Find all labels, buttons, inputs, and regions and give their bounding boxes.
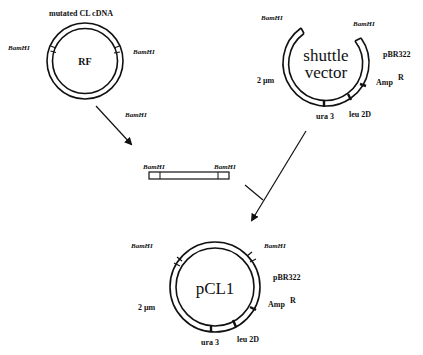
arrow-rf-to-fragment: BamHI (96, 106, 147, 144)
rf-insert-label: mutated CL cDNA (49, 9, 113, 18)
fragment-bamhi-left-label: BamHI (142, 163, 165, 171)
pcl1-amp-sup: R (290, 296, 296, 305)
pcl1-2micron-label: 2 µm (138, 303, 156, 312)
shuttle-bamhi-left-label: BamHI (260, 14, 283, 22)
arrow-bamhi-label: BamHI (124, 111, 147, 119)
shuttle-amp-label: Amp (376, 78, 393, 87)
shuttle-vector: shuttle vector BamHI BamHI pBR322 Amp R … (257, 14, 411, 121)
shuttle-end-right (355, 38, 361, 41)
shuttle-leu2d-label: leu 2D (349, 110, 371, 119)
shuttle-bamhi-right-label: BamHI (352, 20, 375, 28)
bamhi-fragment: BamHI BamHI (142, 163, 236, 179)
rf-bamhi-right-label: BamHI (132, 48, 155, 56)
pcl1-bamhi-left-label: BamHI (130, 242, 153, 250)
shuttle-pbr322-label: pBR322 (383, 50, 411, 59)
pcl1-label: pCL1 (196, 279, 235, 298)
arrow-branch-line (245, 185, 263, 200)
pcl1-ura3-label: ura 3 (201, 338, 219, 347)
fragment-bamhi-right-label: BamHI (213, 163, 236, 171)
rf-bamhi-right-tick2 (114, 52, 120, 53)
pcl1-bamhi-right-label: BamHI (263, 242, 286, 250)
shuttle-ura3-label: ura 3 (316, 112, 334, 121)
pcl1-plasmid: pCL1 BamHI BamHI pBR322 Amp R 2 µm ura 3… (130, 242, 301, 347)
fragment-bar (149, 172, 229, 179)
arrow-long-line (252, 131, 306, 220)
rf-plasmid: RF mutated CL cDNA BamHI BamHI (7, 9, 155, 99)
rf-bamhi-left-tick2 (51, 51, 57, 53)
pcl1-amp-label: Amp (268, 300, 285, 309)
shuttle-amp-sup: R (398, 73, 404, 82)
shuttle-label-line2: vector (305, 63, 348, 82)
shuttle-amp-tick (360, 84, 366, 86)
shuttle-end-left (301, 28, 304, 34)
pcl1-bamhi-right-tick (247, 252, 252, 256)
arrow-to-pcl1 (245, 131, 306, 220)
pcl1-pbr322-label: pBR322 (273, 273, 301, 282)
rf-bamhi-left-label: BamHI (7, 44, 30, 52)
shuttle-2micron-label: 2 µm (257, 76, 275, 85)
diagram-canvas: RF mutated CL cDNA BamHI BamHI BamHI shu… (0, 0, 423, 355)
pcl1-leu2d-label: leu 2D (237, 335, 259, 344)
rf-label: RF (78, 56, 91, 67)
